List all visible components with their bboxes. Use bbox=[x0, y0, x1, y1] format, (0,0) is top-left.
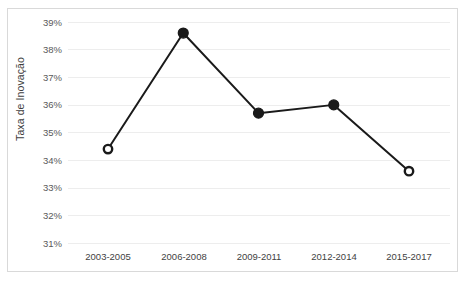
series-markers bbox=[104, 28, 413, 175]
data-point-marker bbox=[178, 28, 188, 38]
data-point-marker bbox=[329, 100, 339, 110]
data-point-marker bbox=[104, 145, 112, 153]
line-chart: Taxa de Inovação 39% 38% 37% 36% 35% 34%… bbox=[0, 0, 466, 281]
data-point-marker bbox=[254, 108, 264, 118]
data-point-marker bbox=[405, 167, 413, 175]
series-plot-area bbox=[0, 0, 466, 281]
series-line bbox=[108, 33, 409, 171]
